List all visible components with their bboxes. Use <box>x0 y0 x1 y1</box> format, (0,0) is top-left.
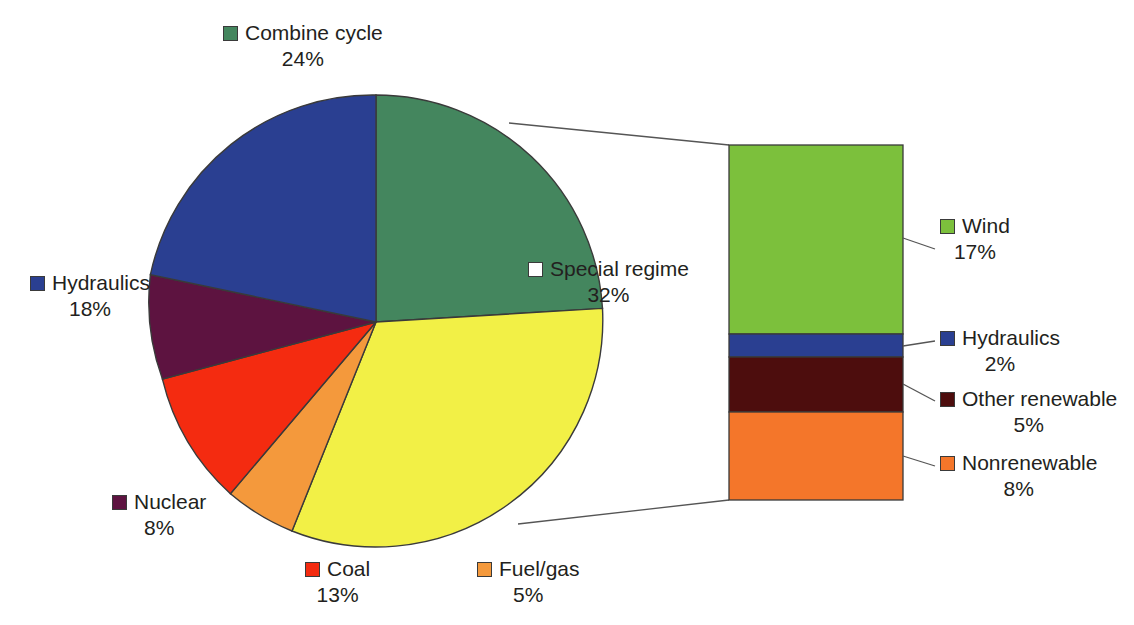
leader-line-other-renewable <box>903 384 935 401</box>
nonrenewable-swatch-icon <box>940 456 955 471</box>
nonrenewable-label-text: Nonrenewable <box>962 450 1097 476</box>
coal-swatch-icon <box>305 562 320 577</box>
pie-label-combine-cycle: Combine cycle 24% <box>223 20 383 72</box>
bar-label-other-renewable: Other renewable 5% <box>940 386 1117 438</box>
fuel-gas-label-pct: 5% <box>477 582 580 608</box>
other-renewable-label-text: Other renewable <box>962 386 1117 412</box>
special-regime-label-pct: 32% <box>528 282 689 308</box>
nuclear-label-text: Nuclear <box>134 489 206 515</box>
special-regime-label-text: Special regime <box>550 256 689 282</box>
bar-label-hydraulics: Hydraulics 2% <box>940 325 1060 377</box>
breakout-line-top <box>509 123 729 145</box>
bar-label-wind: Wind 17% <box>940 213 1010 265</box>
wind-label-text: Wind <box>962 213 1010 239</box>
other-renewable-label-pct: 5% <box>940 412 1117 438</box>
pie-chart <box>149 95 603 547</box>
other-renewable-swatch-icon <box>940 392 955 407</box>
bar-segment-other-renewable[interactable] <box>729 357 903 412</box>
fuel-gas-swatch-icon <box>477 562 492 577</box>
bar-hydraulics-label-pct: 2% <box>940 351 1060 377</box>
hydraulics-label-pct: 18% <box>30 296 150 322</box>
bar-label-nonrenewable: Nonrenewable 8% <box>940 450 1097 502</box>
wind-label-pct: 17% <box>940 239 1010 265</box>
leader-line-nonrenewable <box>903 456 935 466</box>
combine-cycle-label-text: Combine cycle <box>245 20 383 46</box>
wind-swatch-icon <box>940 219 955 234</box>
fuel-gas-label-text: Fuel/gas <box>499 556 580 582</box>
breakout-line-bottom <box>518 500 729 524</box>
leader-line-hydraulics <box>903 341 935 346</box>
hydraulics-label-text: Hydraulics <box>52 270 150 296</box>
bar-segment-nonrenewable[interactable] <box>729 412 903 500</box>
pie-label-coal: Coal 13% <box>305 556 370 608</box>
bar-label-leader-lines <box>903 238 935 466</box>
combine-cycle-label-pct: 24% <box>223 46 383 72</box>
hydraulics-swatch-icon <box>30 276 45 291</box>
stacked-bar <box>729 145 903 500</box>
nonrenewable-label-pct: 8% <box>940 476 1097 502</box>
pie-label-hydraulics: Hydraulics 18% <box>30 270 150 322</box>
bar-hydraulics-label-text: Hydraulics <box>962 325 1060 351</box>
chart-canvas: Combine cycle 24% Hydraulics 18% Nuclear… <box>0 0 1134 625</box>
bar-hydraulics-swatch-icon <box>940 331 955 346</box>
pie-label-special-regime: Special regime 32% <box>528 256 689 308</box>
special-regime-swatch-icon <box>528 262 543 277</box>
coal-label-pct: 13% <box>305 582 370 608</box>
pie-label-nuclear: Nuclear 8% <box>112 489 206 541</box>
combine-cycle-swatch-icon <box>223 26 238 41</box>
bar-segment-wind[interactable] <box>729 145 903 334</box>
coal-label-text: Coal <box>327 556 370 582</box>
pie-label-fuel-gas: Fuel/gas 5% <box>477 556 580 608</box>
nuclear-label-pct: 8% <box>112 515 206 541</box>
leader-line-wind <box>903 238 935 249</box>
bar-segment-hydraulics[interactable] <box>729 334 903 357</box>
nuclear-swatch-icon <box>112 495 127 510</box>
